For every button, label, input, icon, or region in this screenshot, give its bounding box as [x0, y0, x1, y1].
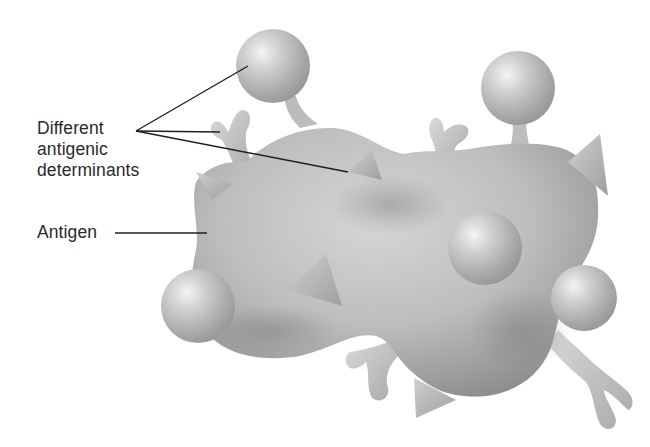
label-different-antigenic-determinants: Different antigenic determinants — [37, 118, 139, 181]
label-line-1: Different — [37, 118, 139, 139]
leader-line-to-y-shape — [136, 131, 220, 132]
label-line-3: determinants — [37, 160, 139, 181]
sphere-determinant-center-right — [448, 211, 522, 285]
stem-top-left — [284, 96, 318, 128]
y-determinant-bottom-middle — [346, 340, 399, 400]
leader-line-to-sphere — [136, 66, 248, 131]
antigen-illustration — [0, 0, 650, 447]
antigen-diagram: Different antigenic determinants Antigen — [0, 0, 650, 447]
sphere-determinant-bottom-left — [161, 269, 235, 343]
sphere-determinant-far-right — [551, 265, 617, 331]
label-antigen: Antigen — [37, 222, 97, 243]
body-shadow-center — [330, 175, 450, 235]
label-line-2: antigenic — [37, 139, 139, 160]
sphere-determinant-top-right — [481, 51, 555, 125]
